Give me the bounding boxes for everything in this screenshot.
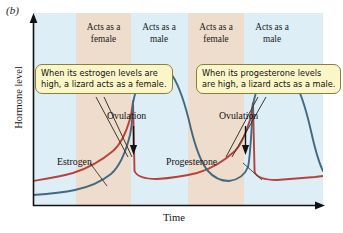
phase-label-male-1: Acts as a male	[131, 22, 187, 45]
phase-label-female-2: Acts as a female	[188, 22, 244, 45]
phase-label-line1: Acts as a	[142, 22, 176, 32]
ovulation-label-1: Ovulation	[107, 110, 146, 121]
panel-letter: (b)	[6, 4, 19, 16]
phase-label-line2: female	[203, 34, 228, 44]
phase-label-line2: male	[263, 34, 281, 44]
callout-line-2: are high, a lizard acts as a male.	[202, 79, 335, 90]
callout-line-1: When its estrogen levels are	[41, 68, 167, 79]
figure-panel-b: (b) Hormone level Time	[0, 0, 343, 233]
callout-line-2: high, a lizard acts as a female.	[41, 79, 167, 90]
ovulation-label-2: Ovulation	[219, 110, 258, 121]
phase-label-line1: Acts as a	[255, 22, 289, 32]
phase-label-line2: female	[91, 34, 116, 44]
phase-label-line1: Acts as a	[87, 22, 121, 32]
series-label-estrogen: Estrogen	[57, 156, 92, 167]
estrogen-curve	[33, 101, 323, 181]
phase-label-female-1: Acts as a female	[76, 22, 131, 45]
x-axis-title: Time	[163, 212, 185, 223]
phase-label-line1: Acts as a	[199, 22, 233, 32]
series-label-progesterone: Progesterone	[166, 156, 217, 167]
phase-label-male-2: Acts as a male	[244, 22, 300, 45]
callout-line-1: When its progesterone levels	[202, 68, 335, 79]
phase-label-line2: male	[150, 34, 168, 44]
y-axis-title: Hormone level	[13, 43, 24, 153]
callout-estrogen: When its estrogen levels are high, a liz…	[35, 64, 173, 94]
callout-progesterone: When its progesterone levels are high, a…	[196, 64, 341, 94]
